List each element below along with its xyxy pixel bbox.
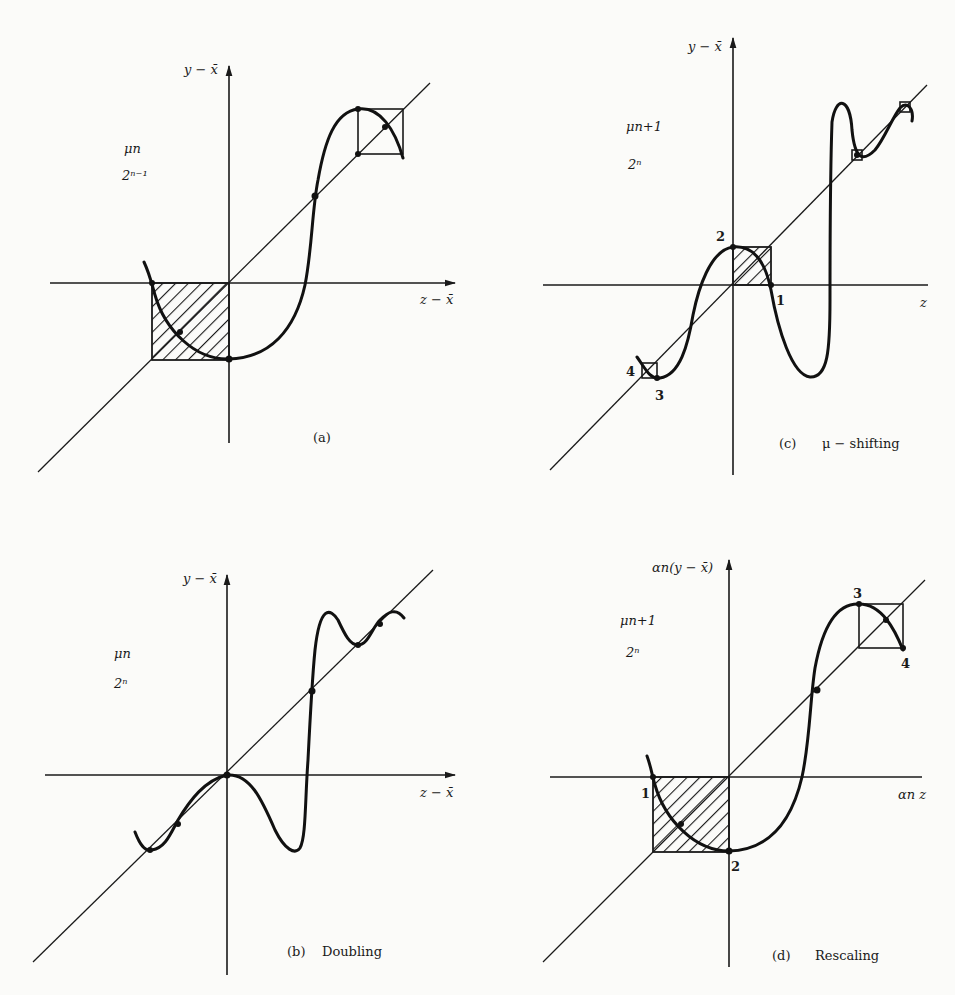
point-label-3: 3 [853,586,862,601]
point-label-4: 4 [901,656,910,671]
caption-text: Doubling [322,944,382,959]
cycle-box [859,604,903,648]
parameter-label: μn [124,141,141,156]
caption-text: Rescaling [815,948,879,963]
x-axis-label: z [919,295,927,310]
period-label: 2ⁿ [113,676,128,691]
parameter-label: μn+1 [626,119,662,134]
x-axis-label: z − x̄ [419,292,454,307]
period-label: 2ⁿ [625,645,640,660]
hatched-region [152,283,229,360]
y-axis-label: αn(y − x̄) [652,560,713,575]
y-axis-label: y − x̄ [182,571,218,586]
point-label-2: 2 [716,229,725,244]
hatched-region [653,777,729,852]
panel-b: y − x̄ z − x̄ μn 2ⁿ (b) Doubling [33,570,455,975]
x-axis-label: z − x̄ [419,785,454,800]
parameter-label: μn [114,646,131,661]
caption-letter: (b) [287,944,305,959]
fixed-points [147,621,383,853]
y-axis-label: y − x̄ [183,62,219,77]
caption-letter: (d) [772,948,790,963]
point-label-4: 4 [626,364,635,379]
x-axis-label: αn z [898,787,926,802]
period-label: 2ⁿ⁻¹ [121,168,148,183]
point-label-1: 1 [776,293,785,308]
period-label: 2ⁿ [627,157,642,172]
caption-letter: (c) [779,436,796,451]
identity-diagonal [543,580,925,962]
map-curve [135,612,404,851]
caption-text: μ − shifting [822,436,900,451]
parameter-label: μn+1 [620,613,656,628]
point-label-2: 2 [731,859,740,874]
point-label-1: 1 [641,786,650,801]
panel-a: y − x̄ z − x̄ μn 2ⁿ⁻¹ (a) [38,62,455,472]
panel-d: 1 2 3 4 αn(y − x̄) αn z μn+1 2ⁿ (d) Resc… [543,560,926,967]
renormalization-figure: y − x̄ z − x̄ μn 2ⁿ⁻¹ (a) 2 1 3 4 y − x̄… [0,0,955,995]
identity-diagonal [38,83,430,472]
panel-c: 2 1 3 4 y − x̄ z μn+1 2ⁿ (c) μ − shiftin… [543,38,928,475]
y-axis-label: y − x̄ [687,39,723,54]
point-label-3: 3 [655,388,664,403]
caption-letter: (a) [313,430,331,445]
